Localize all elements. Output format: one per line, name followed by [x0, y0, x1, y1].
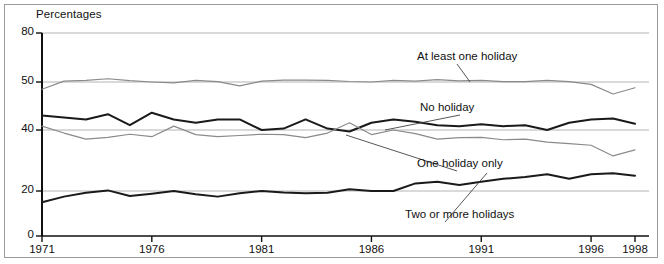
x-tick-label-1998: 1998 [605, 243, 664, 255]
series-line-0 [42, 79, 635, 94]
line-chart-canvas [0, 0, 664, 264]
series-label-2: One holiday only [417, 157, 503, 169]
annotation-leader-lines [346, 64, 487, 222]
x-tick-label-1986: 1986 [341, 243, 401, 255]
series-label-3: Two or more holidays [405, 208, 514, 220]
series-line-1 [42, 113, 635, 132]
x-tick-label-1981: 1981 [232, 243, 292, 255]
y-tick-label-80: 80 [8, 25, 34, 37]
y-tick-label-20: 20 [8, 183, 34, 195]
x-tick-label-1991: 1991 [451, 243, 511, 255]
axis-ticks [36, 33, 635, 242]
series-line-2 [42, 123, 635, 156]
y-tick-label-40: 40 [8, 122, 34, 134]
series-label-0: At least one holiday [417, 50, 517, 62]
series-paths [42, 79, 635, 203]
gridlines [42, 33, 649, 191]
x-tick-label-1971: 1971 [12, 243, 72, 255]
chart-page: Percentages 020405080 197119761981198619… [0, 0, 664, 264]
leader-line-1 [385, 115, 460, 130]
series-line-3 [42, 173, 635, 202]
x-tick-label-1976: 1976 [122, 243, 182, 255]
y-tick-label-0: 0 [8, 228, 34, 240]
series-label-1: No holiday [420, 101, 474, 113]
leader-line-0 [457, 64, 470, 82]
y-tick-label-50: 50 [8, 74, 34, 86]
